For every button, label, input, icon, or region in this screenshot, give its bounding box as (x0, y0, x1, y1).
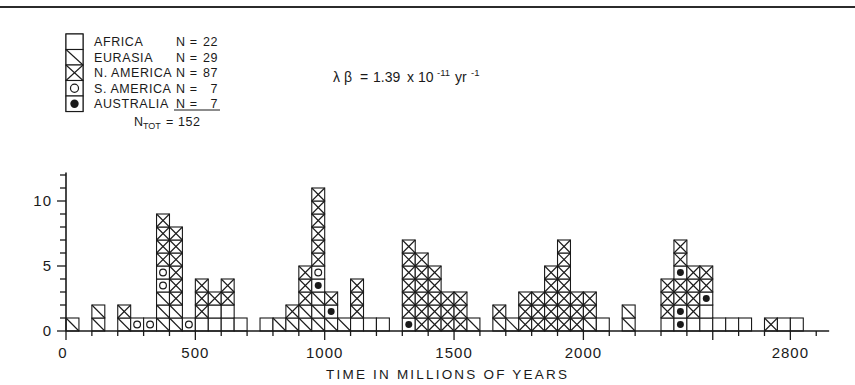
bar-cell-diagonal (169, 318, 182, 331)
legend-count-value: 7 (210, 82, 218, 96)
bar-cell-diagonal (273, 318, 286, 331)
equals-sign: = (360, 69, 368, 85)
bar-cell-diagonal (169, 305, 182, 318)
histogram-bar (441, 292, 454, 331)
bar-cell-filled-circle (312, 279, 325, 292)
bar-cell-open-circle (312, 266, 325, 279)
histogram-bar (596, 318, 609, 331)
bar-cell-cross (519, 292, 532, 305)
bar-cell-filled-circle (325, 305, 338, 318)
bar-cell-blank (376, 318, 389, 331)
histogram-bar (583, 292, 596, 331)
bar-cell-cross (558, 305, 571, 318)
bar-cell-cross (700, 266, 713, 279)
bar-cell-cross (674, 279, 687, 292)
bar-cell-cross (221, 292, 234, 305)
bar-cell-open-circle (157, 266, 170, 279)
unit-exponent: -1 (471, 67, 479, 78)
histogram-bar (402, 240, 415, 331)
bar-cell-filled-circle (674, 318, 687, 331)
bar-cell-cross (558, 266, 571, 279)
bar-cell-diagonal (157, 305, 170, 318)
bar-cell-cross (441, 318, 454, 331)
histogram-bar (144, 318, 157, 331)
bar-cell-cross (441, 292, 454, 305)
lambda-symbol: λ (333, 69, 340, 85)
bar-cell-cross (402, 266, 415, 279)
bar-cell-cross (169, 227, 182, 240)
histogram-bar (570, 292, 583, 331)
bar-cell-cross (687, 279, 700, 292)
bar-cell-blank (221, 305, 234, 318)
bar-cell-diagonal (325, 318, 338, 331)
beta-symbol: β (344, 69, 352, 85)
bar-cell-cross (312, 240, 325, 253)
legend-label: N. AMERICA (94, 66, 172, 80)
bar-cell-cross (415, 292, 428, 305)
times-sign: x (407, 69, 414, 85)
legend-count: N = (176, 35, 198, 49)
x-origin-label: 0 (58, 344, 67, 361)
bar-cell-open-circle (131, 318, 144, 331)
bar-cell-cross (118, 305, 131, 318)
bar-cell-cross (454, 305, 467, 318)
bar-cell-cross (312, 253, 325, 266)
bar-cell-open-circle (182, 318, 195, 331)
bar-cell-blank (700, 305, 713, 318)
legend-count: N = (176, 97, 198, 111)
bar-cell-cross (402, 240, 415, 253)
legend-row: AUSTRALIAN =7 (66, 96, 218, 112)
histogram-bar (519, 292, 532, 331)
bar-cell-blank (221, 318, 234, 331)
bar-cell-diagonal (493, 318, 506, 331)
bar-cell-blank (208, 318, 221, 331)
bar-cell-cross (519, 318, 532, 331)
bar-cell-cross (402, 305, 415, 318)
x-tick-label: 2000 (565, 344, 602, 361)
bar-cell-cross (169, 240, 182, 253)
bar-cell-diagonal (622, 305, 635, 318)
bar-cell-cross (454, 318, 467, 331)
bar-cell-cross (687, 292, 700, 305)
bar-cell-cross (312, 227, 325, 240)
mantissa-value: 1.39 (373, 69, 400, 85)
bar-cell-cross (764, 318, 777, 331)
bar-cell-blank (351, 318, 364, 331)
bar-cell-cross (415, 279, 428, 292)
bar-cell-filled-circle (700, 292, 713, 305)
bar-cell-cross (700, 279, 713, 292)
bar-cell-blank (700, 318, 713, 331)
bar-cell-cross (169, 253, 182, 266)
bar-cell-cross (415, 266, 428, 279)
bar-cell-blank (790, 318, 803, 331)
histogram-bar (169, 227, 182, 331)
histogram-bar (195, 279, 208, 331)
bar-cell-cross (428, 305, 441, 318)
base-ten: 10 (418, 69, 434, 85)
histogram-bar (118, 305, 131, 331)
histogram-bar (790, 318, 803, 331)
bar-cell-cross (415, 253, 428, 266)
bar-cell-cross (674, 292, 687, 305)
bar-cell-cross (532, 318, 545, 331)
histogram-bar (739, 318, 752, 331)
x-tick-label: 1500 (435, 344, 472, 361)
histogram-bar (428, 266, 441, 331)
bar-cell-diagonal (506, 318, 519, 331)
legend-row: S. AMERICAN =7 (66, 81, 218, 97)
histogram-bar (66, 318, 79, 331)
bar-cell-blank (208, 305, 221, 318)
bar-cell-cross (674, 253, 687, 266)
bar-cell-cross (195, 305, 208, 318)
legend-count-value: 29 (203, 51, 218, 65)
bar-cell-diagonal (118, 318, 131, 331)
legend-total-subscript: TOT (143, 121, 161, 131)
bar-cell-blank (687, 318, 700, 331)
bar-cell-diagonal (338, 318, 351, 331)
y-tick-label: 0 (43, 322, 52, 339)
bar-cell-cross (312, 214, 325, 227)
bar-cell-cross (402, 292, 415, 305)
bar-cell-diagonal (583, 318, 596, 331)
histogram-bar (506, 318, 519, 331)
unit-label: yr (455, 69, 467, 85)
